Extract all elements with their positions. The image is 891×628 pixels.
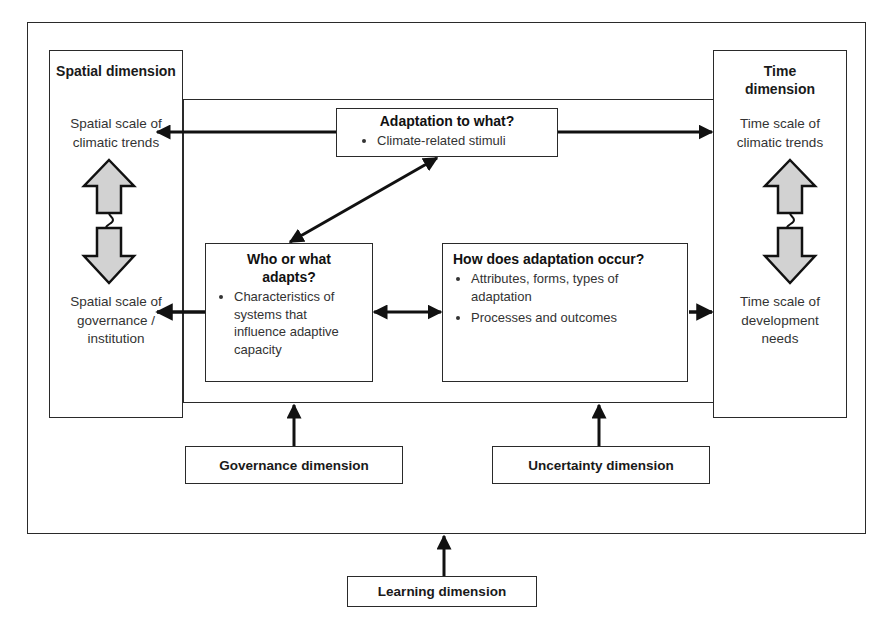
time-scale-development-needs: Time scale of development needs	[714, 293, 846, 349]
uncertainty-dimension-box: Uncertainty dimension	[492, 446, 710, 484]
list-item: Processes and outcomes	[471, 309, 677, 327]
time-scale-climatic-trends: Time scale of climatic trends	[714, 115, 846, 152]
time-dimension-panel: Time dimension Time scale of climatic tr…	[713, 50, 847, 418]
list-item: Climate-related stimuli	[377, 132, 547, 150]
list-item: Attributes, forms, types of adaptation	[471, 270, 677, 305]
spatial-dimension-panel: Spatial dimension Spatial scale of clima…	[49, 50, 183, 418]
adaptation-to-what-title: Adaptation to what?	[347, 112, 547, 130]
time-dimension-title: Time dimension	[714, 62, 846, 98]
who-adapts-box: Who or what adapts? Characteristics of s…	[205, 243, 373, 382]
adaptation-to-what-box: Adaptation to what? Climate-related stim…	[336, 108, 558, 157]
how-adaptation-occurs-list: Attributes, forms, types of adaptation P…	[453, 270, 677, 327]
learning-dimension-box: Learning dimension	[347, 576, 537, 607]
how-adaptation-occurs-title: How does adaptation occur?	[453, 250, 677, 268]
how-adaptation-occurs-box: How does adaptation occur? Attributes, f…	[442, 243, 688, 382]
governance-dimension-box: Governance dimension	[185, 446, 403, 484]
spatial-scale-governance: Spatial scale of governance / institutio…	[50, 293, 182, 349]
who-adapts-list: Characteristics of systems that influenc…	[216, 288, 362, 358]
list-item: Characteristics of systems that influenc…	[234, 288, 362, 358]
who-adapts-title: Who or what adapts?	[216, 250, 362, 286]
spatial-scale-climatic-trends: Spatial scale of climatic trends	[50, 115, 182, 152]
adaptation-to-what-list: Climate-related stimuli	[347, 132, 547, 150]
spatial-dimension-title: Spatial dimension	[50, 62, 182, 80]
